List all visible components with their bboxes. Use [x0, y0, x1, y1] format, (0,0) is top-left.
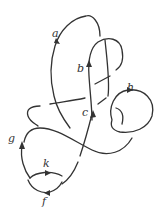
label-k: k [43, 157, 50, 170]
label-c: c [82, 106, 88, 119]
arc-g-sweep [24, 128, 132, 154]
arc-h [111, 90, 153, 133]
arc-right-down [62, 162, 78, 184]
arrow-c-icon [90, 110, 96, 118]
knot-diagram: a b c h g k f [0, 0, 165, 224]
label-g: g [8, 132, 15, 145]
arrow-k-icon [45, 170, 51, 176]
arc-f [28, 180, 62, 193]
label-f: f [41, 195, 48, 208]
arrow-b-icon [86, 60, 92, 67]
label-a: a [52, 27, 59, 40]
arc-crossing-short-1 [95, 76, 110, 84]
arc-crossing-short-2 [98, 98, 106, 104]
arc-g [21, 146, 30, 178]
arc-inner-vertical [105, 40, 109, 96]
label-h: h [127, 81, 134, 94]
label-b: b [77, 62, 84, 75]
arc-h-hook [116, 108, 123, 124]
